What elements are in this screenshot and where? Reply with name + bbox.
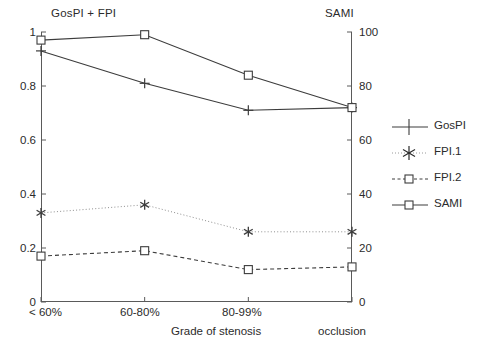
series-gospi <box>36 46 357 115</box>
series-fpi-1 <box>37 200 357 237</box>
plus-marker-icon <box>390 114 430 140</box>
legend-label-sami: SAMI <box>434 197 462 209</box>
legend-item-gospi[interactable]: GosPI <box>390 114 480 140</box>
square-marker-icon <box>390 192 430 218</box>
legend-item-fpi1[interactable]: FPI.1 <box>390 140 480 166</box>
square-marker-icon <box>390 166 430 192</box>
legend: GosPI FPI.1 FPI.2 <box>390 114 480 218</box>
legend-item-sami[interactable]: SAMI <box>390 192 480 218</box>
legend-label-fpi1: FPI.1 <box>434 145 461 157</box>
legend-label-fpi2: FPI.2 <box>434 171 461 183</box>
series-sami <box>37 31 356 112</box>
legend-item-fpi2[interactable]: FPI.2 <box>390 166 480 192</box>
chart-container: GosPI + FPI SAMI 0 0.2 0.4 0.6 0.8 1 0 2… <box>0 0 482 354</box>
series-fpi-2 <box>37 247 356 274</box>
asterisk-marker-icon <box>390 140 430 166</box>
legend-label-gospi: GosPI <box>434 119 466 131</box>
